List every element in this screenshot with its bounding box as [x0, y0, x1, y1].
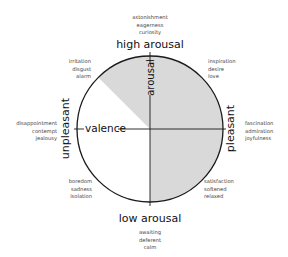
emotions-bottom-left: boredom sadness isolation: [52, 178, 92, 201]
emotion-label: jealousy: [36, 135, 58, 143]
valence-axis-label: valence: [85, 122, 126, 134]
pole-high-arousal: high arousal: [115, 38, 185, 51]
emotion-label: astonishment: [132, 14, 167, 22]
emotion-label: alarm: [76, 73, 91, 81]
emotion-label: satisfaction: [204, 178, 234, 186]
emotion-label: curiosity: [139, 29, 161, 37]
emotions-left: disappointment contempt jealousy: [2, 120, 57, 143]
pole-low-arousal: low arousal: [115, 212, 185, 225]
emotion-label: boredom: [69, 178, 92, 186]
emotion-label: joyfulness: [245, 135, 271, 143]
emotions-top-right: inspiration desire love: [208, 58, 248, 81]
emotions-top: astonishment eagerness curiosity: [120, 14, 180, 37]
circumplex-diagram: astonishment eagerness curiosity high ar…: [0, 0, 288, 257]
emotion-label: contempt: [32, 128, 57, 136]
emotions-bottom: awaiting deferent calm: [120, 229, 180, 252]
emotion-label: softened: [204, 186, 227, 194]
emotions-right: fascination admiration joyfulness: [245, 120, 287, 143]
emotion-label: deferent: [139, 237, 161, 245]
emotion-label: calm: [144, 244, 157, 252]
emotion-label: inspiration: [208, 58, 235, 66]
emotion-label: sadness: [71, 186, 92, 194]
emotion-label: desire: [208, 66, 224, 74]
emotion-label: isolation: [70, 193, 92, 201]
emotion-label: disgust: [72, 66, 91, 74]
emotion-label: irritation: [69, 58, 91, 66]
emotion-label: disappointment: [16, 120, 57, 128]
emotion-label: love: [208, 73, 219, 81]
pole-unpleasant: unpleasant: [59, 97, 72, 161]
emotions-bottom-right: satisfaction softened relaxed: [204, 178, 248, 201]
emotions-top-left: irritation disgust alarm: [55, 58, 91, 81]
emotion-label: awaiting: [139, 229, 161, 237]
arousal-axis-label: arousal: [145, 56, 156, 100]
pole-pleasant: pleasant: [224, 104, 237, 154]
emotion-label: admiration: [245, 128, 273, 136]
emotion-label: eagerness: [137, 22, 164, 30]
emotion-label: relaxed: [204, 193, 223, 201]
emotion-label: fascination: [245, 120, 273, 128]
